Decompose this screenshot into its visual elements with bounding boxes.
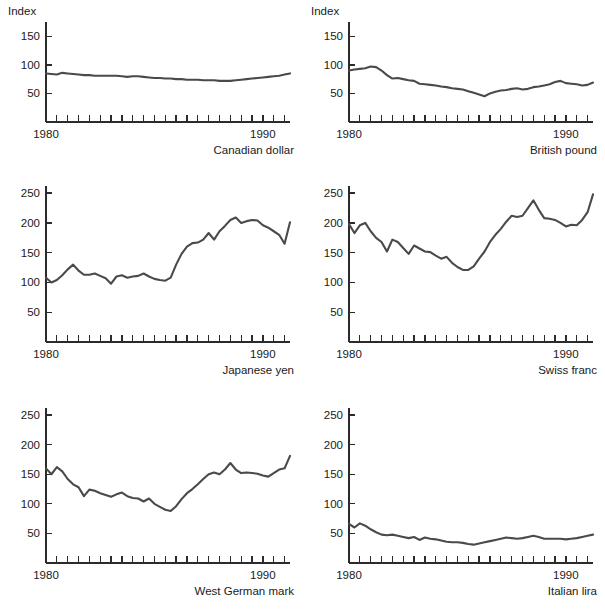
y-tick-label: 100 (324, 498, 343, 510)
x-tick-label-start: 1980 (33, 569, 59, 581)
series-line (46, 73, 290, 81)
panel-caption: British pound (530, 144, 597, 156)
chart-panel-italian-lira: 5010015020025019801990Italian lira (303, 390, 605, 615)
x-tick-label-start: 1980 (33, 348, 59, 360)
y-tick-label: 50 (27, 87, 40, 99)
y-axis-title: Index (311, 5, 339, 17)
y-tick-label: 250 (21, 409, 40, 421)
panel-caption: Japanese yen (222, 364, 294, 376)
y-tick-label: 250 (21, 187, 40, 199)
y-tick-label: 150 (21, 30, 40, 42)
x-tick-label-end: 1990 (553, 348, 579, 360)
y-tick-label: 100 (21, 59, 40, 71)
y-tick-label: 50 (27, 527, 40, 539)
y-tick-label: 200 (324, 217, 343, 229)
series-line (349, 523, 593, 544)
chart-panel-west-german-mark: 5010015020025019801990West German mark (0, 390, 302, 615)
chart-panel-japanese-yen: 5010015020025019801990Japanese yen (0, 168, 302, 390)
x-tick-label-start: 1980 (336, 128, 362, 140)
y-tick-label: 100 (21, 276, 40, 288)
chart-grid: Index5010015019801990Canadian dollarInde… (0, 0, 605, 615)
panel-caption: Canadian dollar (213, 144, 294, 156)
y-axis-title: Index (8, 5, 36, 17)
y-tick-label: 50 (330, 87, 343, 99)
series-line (349, 67, 593, 97)
y-tick-label: 50 (330, 306, 343, 318)
y-tick-label: 150 (324, 468, 343, 480)
series-line (349, 194, 593, 270)
y-tick-label: 150 (324, 247, 343, 259)
x-tick-label-start: 1980 (33, 128, 59, 140)
series-line (46, 218, 290, 284)
x-tick-label-end: 1990 (553, 128, 579, 140)
y-tick-label: 150 (21, 468, 40, 480)
y-tick-label: 100 (21, 498, 40, 510)
panel-caption: Swiss franc (538, 364, 597, 376)
x-tick-label-start: 1980 (336, 348, 362, 360)
y-tick-label: 50 (27, 306, 40, 318)
y-tick-label: 150 (324, 30, 343, 42)
x-tick-label-end: 1990 (250, 128, 276, 140)
chart-panel-canadian-dollar: Index5010015019801990Canadian dollar (0, 0, 302, 168)
x-tick-label-end: 1990 (553, 569, 579, 581)
y-tick-label: 250 (324, 409, 343, 421)
y-tick-label: 50 (330, 527, 343, 539)
panel-caption: Italian lira (548, 585, 598, 597)
x-tick-label-end: 1990 (250, 348, 276, 360)
x-tick-label-start: 1980 (336, 569, 362, 581)
y-tick-label: 150 (21, 247, 40, 259)
series-line (46, 456, 290, 511)
y-tick-label: 250 (324, 187, 343, 199)
panel-caption: West German mark (195, 585, 295, 597)
y-tick-label: 200 (21, 217, 40, 229)
y-tick-label: 100 (324, 59, 343, 71)
chart-panel-swiss-franc: 5010015020025019801990Swiss franc (303, 168, 605, 390)
y-tick-label: 200 (21, 439, 40, 451)
y-tick-label: 100 (324, 276, 343, 288)
y-tick-label: 200 (324, 439, 343, 451)
chart-panel-british-pound: Index5010015019801990British pound (303, 0, 605, 168)
x-tick-label-end: 1990 (250, 569, 276, 581)
